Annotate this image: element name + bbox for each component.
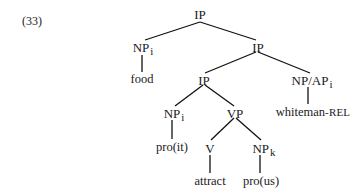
node-ip-mid: IP	[252, 41, 264, 54]
node-np-pro-us: NPk	[252, 142, 275, 156]
node-v: V	[205, 142, 214, 155]
node-ip-low: IP	[198, 74, 210, 87]
tree-edges	[0, 0, 357, 193]
word-attract: attract	[194, 175, 225, 188]
node-index: i	[150, 45, 153, 57]
node-np-ap: NP/APi	[292, 74, 333, 88]
node-np-pro-it: NPi	[164, 107, 185, 121]
word-whiteman-rel: whiteman-REL	[276, 106, 351, 119]
edge-ipmid-iplow	[205, 52, 256, 73]
node-ip-root: IP	[194, 8, 206, 21]
node-vp: VP	[227, 107, 244, 120]
edge-ipmid-npap	[258, 52, 310, 73]
node-index: i	[329, 78, 332, 90]
edge-iplow-vp	[205, 85, 234, 106]
edge-root-subject	[145, 22, 200, 40]
word-main: whiteman	[276, 105, 325, 119]
word-food: food	[131, 73, 154, 86]
node-index: i	[181, 111, 184, 123]
edge-vp-npk	[236, 118, 261, 140]
word-suffix: -REL	[325, 106, 350, 118]
edge-root-ipmid	[200, 22, 256, 40]
node-index: k	[270, 146, 276, 158]
node-label: NP	[133, 40, 150, 55]
word-pro-us: pro(us)	[243, 175, 279, 188]
edge-iplow-npit	[175, 85, 203, 106]
node-label: NP	[252, 141, 269, 156]
edge-vp-v	[211, 118, 234, 140]
node-label: NP	[164, 106, 181, 121]
word-pro-it: pro(it)	[156, 141, 188, 154]
node-np-subject: NPi	[133, 41, 154, 55]
node-label: NP/AP	[292, 73, 329, 88]
